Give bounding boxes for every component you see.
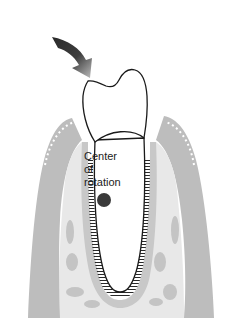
label-line-1: Center	[84, 150, 121, 163]
center-of-rotation-label: Center of rotation	[84, 150, 121, 189]
tooth-crown	[83, 69, 147, 142]
force-arrow-icon	[52, 37, 92, 78]
label-line-2: of	[84, 163, 121, 176]
label-line-3: rotation	[84, 176, 121, 189]
center-of-rotation-dot	[97, 193, 111, 207]
